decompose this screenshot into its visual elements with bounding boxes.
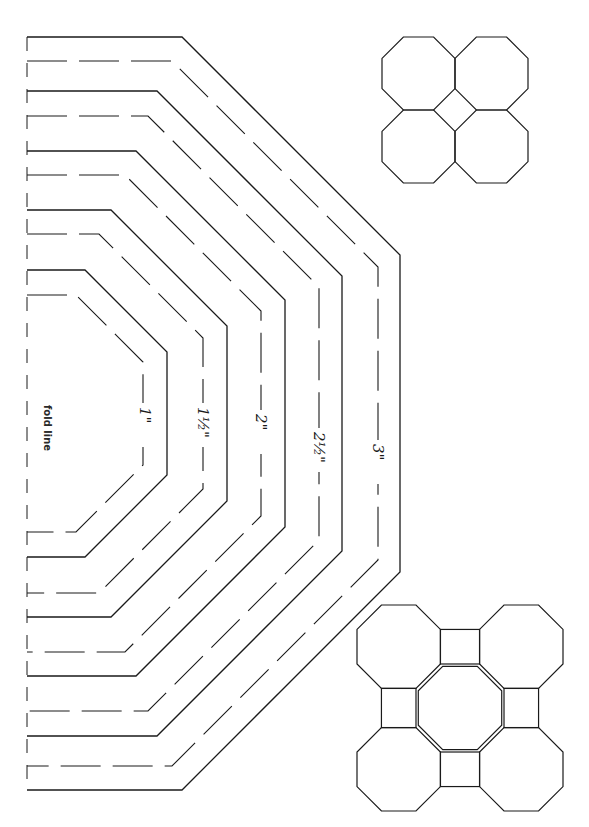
octagon-shape xyxy=(455,110,528,183)
size-label: 2½" xyxy=(310,431,328,463)
cut-line-4 xyxy=(27,37,400,790)
cut-line-3 xyxy=(27,91,342,736)
seam-line-3 xyxy=(27,116,319,711)
octagon-shape xyxy=(382,37,455,110)
four-octagon-layout-diagram xyxy=(382,37,528,183)
square-shape xyxy=(440,752,479,787)
square-shape xyxy=(440,629,479,664)
octagon-shape xyxy=(418,666,501,749)
octagon-shape xyxy=(382,110,455,183)
template-sheet: 1"1½"2"2½"3" fold line xyxy=(0,0,589,827)
square-shape xyxy=(504,688,539,727)
size-label: 1½" xyxy=(194,407,212,438)
cut-line-2 xyxy=(27,151,285,676)
square-shape xyxy=(381,688,416,727)
size-label: 2" xyxy=(252,413,270,430)
size-label: 3" xyxy=(369,444,387,460)
octagon-shape xyxy=(357,605,440,688)
octagon-shape xyxy=(455,37,528,110)
fold-line-label: fold line xyxy=(42,405,53,451)
octagon-templates xyxy=(27,37,400,790)
octagon-shape xyxy=(480,728,563,811)
octagon-shape xyxy=(357,728,440,811)
five-octagon-layout-diagram xyxy=(357,605,563,811)
octagon-shape xyxy=(480,605,563,688)
size-label: 1" xyxy=(136,407,154,423)
